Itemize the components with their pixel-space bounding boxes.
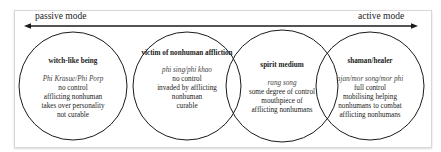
circle-4-line: full control (322, 84, 418, 93)
right-arrowhead-icon (411, 23, 418, 29)
circle-4-line: mobilising helping (322, 93, 418, 102)
circle-4-line: afflicting nonhumans (322, 111, 418, 120)
mode-arrow (24, 23, 418, 29)
circle-1-term: Phi Krasue/Phi Porp (25, 75, 121, 84)
circle-3-title: spirit medium (234, 61, 330, 71)
circle-1-line: afflicting nonhuman (25, 93, 121, 102)
passive-mode-label: passive mode (35, 11, 86, 21)
circle-2-content: victim of nonhuman affliction phi sing/p… (139, 49, 235, 111)
circle-2-title: victim of nonhuman affliction (139, 49, 235, 59)
circle-1-title: witch-like being (25, 57, 121, 67)
circle-3-line: some degree of control (234, 88, 330, 97)
circle-2-line: invaded by afflicting (139, 84, 235, 93)
circle-2-line: no control (139, 75, 235, 84)
circle-3-line: mouthpiece of (234, 97, 330, 106)
left-arrowhead-icon (24, 23, 31, 29)
circle-1-line: takes over personality (25, 102, 121, 111)
active-mode-label: active mode (358, 11, 404, 21)
circle-4-term: ajan/mor song/mor phi (322, 75, 418, 84)
circle-1-content: witch-like being Phi Krasue/Phi Porp no … (25, 57, 121, 120)
circle-4-title: shaman/healer (322, 57, 418, 67)
circle-1-line: not curable (25, 111, 121, 120)
circle-2-term: phi sing/phi khao (139, 66, 235, 75)
circle-2-line: nonhuman (139, 93, 235, 102)
circle-4-line: nonhumans to combat (322, 102, 418, 111)
circle-3-content: spirit medium rang song some degree of c… (234, 61, 330, 115)
circle-3-line: afflicting nonhumans (234, 106, 330, 115)
circle-4-content: shaman/healer ajan/mor song/mor phi full… (322, 57, 418, 120)
circle-2-line: curable (139, 102, 235, 111)
circle-1-line: no control (25, 84, 121, 93)
circle-3-term: rang song (234, 79, 330, 88)
